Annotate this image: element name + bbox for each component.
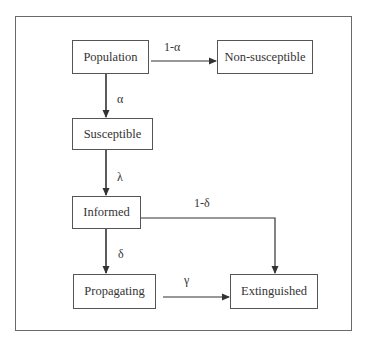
node-label: Extinguished (241, 284, 307, 299)
edge-label-alpha: α (117, 92, 123, 107)
node-label: Propagating (84, 284, 144, 299)
node-non-susceptible: Non-susceptible (217, 40, 313, 74)
edge-label-gamma: γ (184, 273, 189, 288)
edge-label-lambda: λ (117, 170, 123, 185)
node-susceptible: Susceptible (72, 118, 153, 150)
node-propagating: Propagating (73, 274, 156, 309)
edge-label-1-alpha: 1-α (164, 40, 180, 55)
node-label: Non-susceptible (224, 50, 305, 65)
edge-label-1-delta: 1-δ (194, 196, 210, 211)
node-label: Population (83, 50, 137, 65)
edge-label-delta: δ (118, 247, 124, 262)
node-population: Population (72, 40, 149, 74)
node-informed: Informed (72, 196, 141, 229)
node-label: Informed (83, 205, 130, 220)
node-label: Susceptible (84, 127, 142, 142)
node-extinguished: Extinguished (230, 274, 318, 309)
edge-informed-extinguished (141, 218, 275, 273)
